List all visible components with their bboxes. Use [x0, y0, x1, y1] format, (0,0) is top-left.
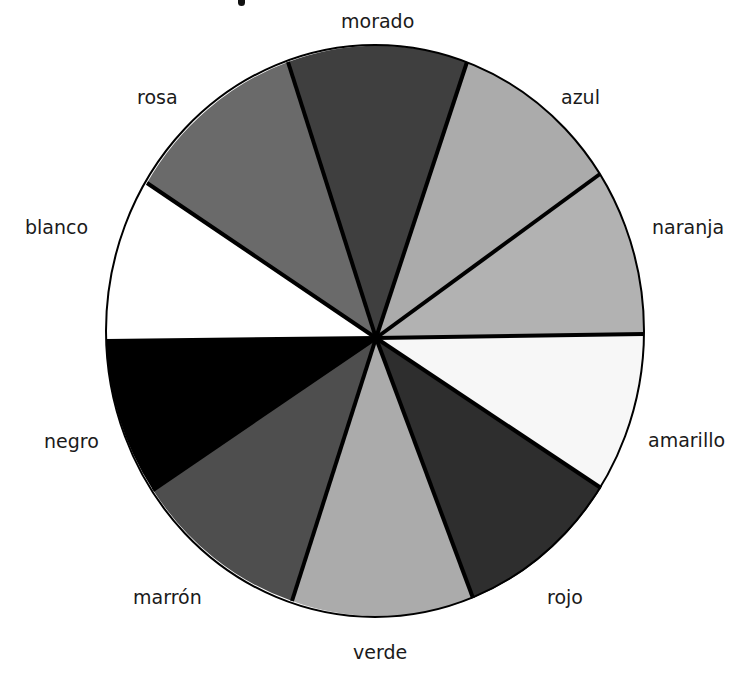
label-marron: marrón [133, 588, 202, 607]
label-morado: morado [341, 12, 414, 31]
label-verde: verde [353, 643, 407, 662]
color-wheel [0, 0, 744, 693]
label-azul: azul [561, 88, 600, 107]
label-rosa: rosa [137, 88, 178, 107]
label-rojo: rojo [547, 588, 583, 607]
label-naranja: naranja [652, 218, 724, 237]
label-amarillo: amarillo [648, 431, 725, 450]
label-blanco: blanco [25, 218, 88, 237]
label-negro: negro [44, 432, 99, 451]
